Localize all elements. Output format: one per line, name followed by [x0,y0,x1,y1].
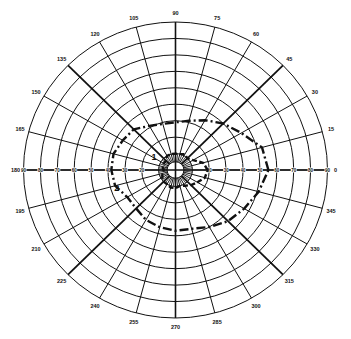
angle-label-120: 120 [90,31,99,37]
visual-field-polar-chart: 0153045607590105120135150165180195210225… [0,0,351,339]
angle-label-300: 300 [251,303,260,309]
ring-label-80: 80 [308,168,314,173]
angle-label-285: 285 [213,319,222,325]
angle-label-165: 165 [15,126,24,132]
angle-label-330: 330 [310,246,319,252]
spoke-240 [100,177,172,298]
ring-label-60: 60 [274,168,280,173]
ring-label-60: 60 [72,168,78,173]
ring-label-20: 20 [139,168,145,173]
ring-label-50: 50 [89,168,95,173]
angle-label-15: 15 [328,126,334,132]
angle-label-105: 105 [129,15,138,21]
spoke-150 [44,96,168,166]
isopter-label-1: 1 [152,152,157,162]
ring-label-30: 30 [224,168,230,173]
inner-spoke [184,171,192,172]
angle-label-135: 135 [57,56,66,62]
ring-label-90: 90 [21,168,27,173]
ring-label-80: 80 [38,168,44,173]
angle-label-255: 255 [129,319,138,325]
spoke-120 [100,42,172,163]
inner-spoke [184,168,192,169]
angle-label-75: 75 [214,15,220,21]
isopter-label-2: 2 [114,183,119,193]
spoke-135 [68,65,170,164]
angle-label-60: 60 [253,31,259,37]
angle-label-270: 270 [171,324,180,330]
angle-spokes [24,22,328,318]
angle-label-315: 315 [285,278,294,284]
angle-label-210: 210 [31,246,40,252]
angle-label-240: 240 [90,303,99,309]
inner-spoke [173,178,174,186]
ring-label-90: 90 [325,168,331,173]
ring-label-70: 70 [291,168,297,173]
spoke-300 [180,177,252,298]
spoke-60 [180,42,252,163]
angle-label-195: 195 [15,208,24,214]
angle-label-30: 30 [312,89,318,95]
ring-label-30: 30 [122,168,128,173]
angle-label-90: 90 [172,10,178,16]
ring-label-70: 70 [55,168,61,173]
spoke-210 [44,174,168,244]
spoke-30 [183,96,307,166]
angle-label-150: 150 [31,89,40,95]
ring-label-50: 50 [257,168,263,173]
angle-label-45: 45 [286,56,292,62]
angle-label-345: 345 [326,208,335,214]
angle-label-225: 225 [57,278,66,284]
angle-label-180: 180 [11,167,20,173]
inner-spoke [177,178,178,186]
angle-label-0: 0 [334,167,337,173]
spoke-45 [181,65,283,164]
spoke-315 [181,176,283,275]
ring-label-40: 40 [241,168,247,173]
